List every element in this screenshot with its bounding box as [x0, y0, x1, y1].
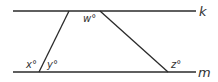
label-m: m [198, 65, 211, 80]
right-transversal [100, 11, 168, 72]
angle-label-x: x° [25, 59, 37, 70]
label-k: k [199, 4, 207, 19]
angle-label-z: z° [170, 59, 181, 70]
parallel-lines-diagram: k m w° x° y° z° [0, 0, 218, 82]
angle-label-w: w° [83, 13, 96, 24]
angle-label-y: y° [46, 59, 58, 70]
